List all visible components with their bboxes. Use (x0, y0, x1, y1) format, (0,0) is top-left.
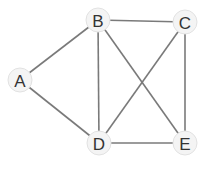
node-b: B (86, 8, 110, 32)
edges-group (20, 20, 185, 143)
edge-b-c (98, 20, 185, 22)
node-b-label: B (92, 12, 103, 31)
edge-b-e (98, 20, 185, 143)
node-d: D (87, 131, 111, 155)
node-a: A (8, 68, 32, 92)
node-e-label: E (179, 135, 190, 154)
nodes-group: A B C D E (8, 8, 197, 155)
edge-a-d (20, 80, 99, 143)
node-d-label: D (93, 135, 105, 154)
node-e: E (173, 131, 197, 155)
node-c: C (173, 10, 197, 34)
node-a-label: A (14, 72, 26, 91)
edge-b-d (98, 20, 99, 143)
edge-a-b (20, 20, 98, 80)
node-c-label: C (179, 14, 191, 33)
graph-diagram: A B C D E (0, 0, 210, 169)
graph-svg: A B C D E (0, 0, 210, 169)
